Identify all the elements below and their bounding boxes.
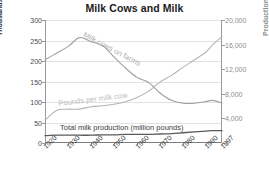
y-axis-left-tick-label: 300 bbox=[30, 17, 42, 24]
x-axis-tick-mark bbox=[45, 143, 46, 145]
x-axis-tick-mark bbox=[68, 143, 69, 145]
y-axis-left-title: Thousands of Cows bbox=[0, 0, 3, 36]
x-axis-tick-mark bbox=[137, 143, 138, 145]
x-axis-tick-mark bbox=[114, 143, 115, 145]
y-axis-right-tick-label: 20,000 bbox=[225, 17, 246, 24]
x-axis-tick-mark bbox=[91, 143, 92, 145]
y-axis-left-tick-label: 150 bbox=[30, 78, 42, 85]
series-line-pounds-per-milk-cow bbox=[45, 37, 222, 121]
y-axis-left-ticks: 050100150200250300 bbox=[18, 20, 42, 143]
y-axis-left-tick-label: 200 bbox=[30, 58, 42, 65]
x-axis-tick-mark bbox=[160, 143, 161, 145]
y-axis-left-tick-label: 250 bbox=[30, 37, 42, 44]
y-axis-right-tick-mark bbox=[222, 118, 225, 119]
x-axis-tick-mark bbox=[222, 143, 223, 145]
x-axis-tick-mark bbox=[206, 143, 207, 145]
plot-area bbox=[45, 20, 222, 143]
y-axis-right-tick-label: 8,000 bbox=[225, 90, 243, 97]
y-axis-right-tick-label: 4,000 bbox=[225, 115, 243, 122]
chart-title: Milk Cows and Milk bbox=[0, 2, 269, 14]
y-axis-right-tick-mark bbox=[222, 20, 225, 21]
chart-figure: Milk Cows and Milk Thousands of Cows Pro… bbox=[0, 0, 269, 174]
series-line-total-milk-production-million-pounds bbox=[45, 131, 222, 136]
series-lines bbox=[45, 20, 222, 143]
y-axis-right-tick-label: 12,000 bbox=[225, 66, 246, 73]
y-axis-right-tick-mark bbox=[222, 45, 225, 46]
y-axis-right-tick-mark bbox=[222, 94, 225, 95]
x-axis-ticks: 192019301940195019601970198019901997 bbox=[45, 145, 222, 173]
y-axis-right-ticks: 04,0008,00012,00016,00020,000 bbox=[225, 20, 265, 143]
y-axis-left-tick-label: 100 bbox=[30, 99, 42, 106]
x-axis-tick-mark bbox=[183, 143, 184, 145]
series-line-milk-cows-on-farms bbox=[45, 38, 222, 104]
y-axis-right-tick-label: 16,000 bbox=[225, 41, 246, 48]
y-axis-left-tick-label: 50 bbox=[34, 119, 42, 126]
y-axis-right-tick-mark bbox=[222, 69, 225, 70]
